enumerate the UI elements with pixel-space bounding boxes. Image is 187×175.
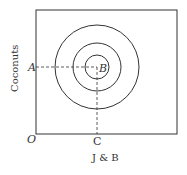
indifference-curve-diagram: A B O C J & B Coconuts: [0, 0, 187, 175]
origin-label: O: [27, 133, 36, 146]
point-a-label: A: [27, 61, 36, 74]
x-axis-label: J & B: [91, 152, 119, 163]
point-c-label: C: [93, 135, 101, 148]
y-axis-label: Coconuts: [9, 45, 20, 92]
bliss-point-label: B: [98, 62, 107, 75]
